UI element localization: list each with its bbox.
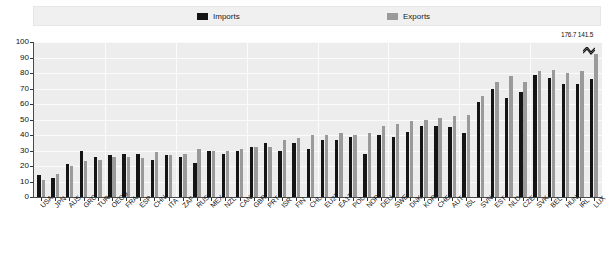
bar-imports <box>165 155 168 197</box>
outlier-value-annotation: 176.7 141.5 <box>561 31 593 39</box>
bar-exports <box>84 161 87 197</box>
bar-exports <box>42 180 45 197</box>
bar-exports <box>523 82 526 197</box>
y-tick-mark <box>30 89 33 90</box>
bar-group <box>374 42 388 197</box>
bar-group <box>502 42 516 197</box>
bar-exports <box>467 115 470 197</box>
x-tick-mark <box>140 198 141 201</box>
bar-group <box>261 42 275 197</box>
x-tick-label: ITA <box>167 197 180 210</box>
bar-exports <box>155 152 158 197</box>
bar-imports <box>179 157 182 197</box>
bar-imports <box>349 137 352 197</box>
x-tick-mark <box>310 198 311 201</box>
bar-imports <box>108 155 111 197</box>
bar-imports <box>363 154 366 197</box>
bar-exports <box>254 147 257 197</box>
bar-group <box>459 42 473 197</box>
bar-group <box>147 42 161 197</box>
bar-imports <box>562 84 565 197</box>
bar-exports <box>594 54 597 197</box>
bar-imports <box>505 98 508 197</box>
bar-imports <box>321 140 324 197</box>
bar-group <box>247 42 261 197</box>
bar-imports <box>80 151 83 198</box>
legend-item-imports: Imports <box>197 11 240 22</box>
y-tick-mark <box>30 135 33 136</box>
legend-swatch-exports-icon <box>387 13 398 20</box>
x-tick-mark <box>452 198 453 201</box>
bar-imports <box>406 132 409 197</box>
bar-group <box>332 42 346 197</box>
bar-imports <box>292 143 295 197</box>
x-tick-label: IRL <box>578 197 591 210</box>
x-tick-mark <box>466 198 467 201</box>
bar-group <box>360 42 374 197</box>
bar-imports <box>548 78 551 197</box>
y-tick-mark <box>30 104 33 105</box>
bar-imports <box>278 151 281 198</box>
legend-swatch-imports-icon <box>197 13 208 20</box>
x-tick-mark <box>367 198 368 201</box>
bar-group <box>105 42 119 197</box>
y-tick-label: 100 <box>5 38 29 46</box>
x-tick-mark <box>381 198 382 201</box>
bar-imports <box>533 75 536 197</box>
y-tick-mark <box>30 182 33 183</box>
x-tick-mark <box>55 198 56 201</box>
bar-group <box>48 42 62 197</box>
bar-imports <box>519 92 522 197</box>
bar-exports <box>325 135 328 197</box>
bar-group <box>318 42 332 197</box>
bar-group <box>133 42 147 197</box>
bar-group <box>77 42 91 197</box>
x-tick-mark <box>183 198 184 201</box>
y-tick-mark <box>30 120 33 121</box>
x-tick-mark <box>211 198 212 201</box>
bar-exports <box>268 147 271 197</box>
x-tick-mark <box>84 198 85 201</box>
bar-exports <box>197 149 200 197</box>
bar-group <box>190 42 204 197</box>
x-tick-mark <box>197 198 198 201</box>
bar-group <box>346 42 360 197</box>
bar-group <box>232 42 246 197</box>
bar-group <box>445 42 459 197</box>
bar-imports <box>392 137 395 197</box>
bar-exports <box>70 166 73 197</box>
x-tick-mark <box>325 198 326 201</box>
bar-imports <box>207 151 210 198</box>
y-tick-label: 60 <box>5 100 29 108</box>
bar-group <box>62 42 76 197</box>
bar-group <box>488 42 502 197</box>
bar-group <box>275 42 289 197</box>
bar-imports <box>335 140 338 197</box>
bar-group <box>162 42 176 197</box>
y-tick-mark <box>30 151 33 152</box>
bar-exports <box>141 158 144 197</box>
x-tick-mark <box>580 198 581 201</box>
bar-exports <box>240 149 243 197</box>
x-tick-mark <box>509 198 510 201</box>
x-tick-mark <box>169 198 170 201</box>
x-tick-mark <box>537 198 538 201</box>
bar-imports <box>448 127 451 197</box>
x-tick-mark <box>268 198 269 201</box>
x-tick-label: ISR <box>280 196 294 210</box>
bar-exports <box>453 116 456 197</box>
y-tick-label: 30 <box>5 147 29 155</box>
bar-exports <box>566 73 569 197</box>
y-tick-mark <box>30 58 33 59</box>
bar-exports <box>112 157 115 197</box>
x-tick-mark <box>282 198 283 201</box>
x-tick-label: ISL <box>464 197 477 210</box>
bar-group <box>530 42 544 197</box>
x-tick-mark <box>112 198 113 201</box>
bar-exports <box>339 133 342 197</box>
x-tick-mark <box>395 198 396 201</box>
x-tick-mark <box>69 198 70 201</box>
bar-imports <box>222 154 225 197</box>
x-tick-mark <box>594 198 595 201</box>
bar-imports <box>377 135 380 197</box>
